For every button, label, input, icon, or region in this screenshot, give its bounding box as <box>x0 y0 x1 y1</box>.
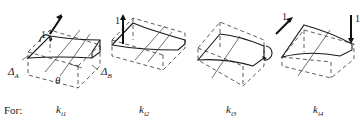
case1-beam <box>22 14 100 88</box>
case3-label-sub: i3 <box>231 110 236 118</box>
delta-a-sub: A <box>14 72 18 80</box>
theta-label: θ <box>55 75 60 86</box>
case2-unit-label: 1 <box>115 16 120 26</box>
case4-unit-label: 1 <box>355 14 360 24</box>
case3-label: ki3 <box>226 104 236 118</box>
delta-a-label: ΔA <box>8 66 19 80</box>
case1-label: ki1 <box>56 104 66 118</box>
row-label: For: <box>4 105 22 116</box>
case4-label: ki4 <box>313 104 323 118</box>
case2-beam <box>112 14 185 70</box>
case4-beam <box>276 15 354 78</box>
delta-b-label: ΔB <box>101 66 112 80</box>
case3-beam <box>198 22 272 86</box>
case2-label-sub: i2 <box>144 110 149 118</box>
case2-label: ki2 <box>139 104 149 118</box>
case1-label-sub: i1 <box>61 110 66 118</box>
case4-label-sub: i4 <box>318 110 323 118</box>
case3-unit-label: 1 <box>282 12 287 22</box>
delta-b-sub: B <box>107 72 111 80</box>
case1-unit-label: 1 <box>41 30 46 40</box>
